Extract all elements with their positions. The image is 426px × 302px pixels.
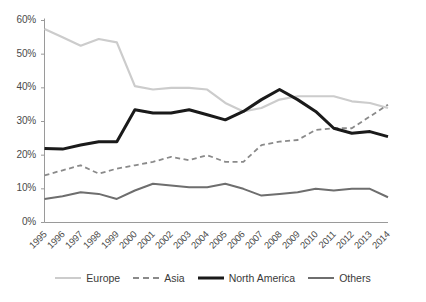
legend-swatch-icon (198, 274, 224, 283)
legend-label: North America (229, 272, 296, 284)
series-lines (45, 29, 389, 199)
legend-label: Asia (164, 272, 184, 284)
legend-swatch-icon (133, 274, 159, 283)
series-line-europe (45, 29, 389, 111)
y-axis-tick-label: 40% (2, 81, 36, 92)
axis-tick-marks (41, 21, 45, 223)
y-axis-tick-label: 0% (2, 216, 36, 227)
legend-swatch-icon (308, 274, 334, 283)
y-axis-tick-label: 60% (2, 14, 36, 25)
y-axis-tick-label: 20% (2, 149, 36, 160)
legend-item-asia[interactable]: Asia (133, 272, 184, 284)
legend-label: Others (339, 272, 371, 284)
y-axis-tick-label: 30% (2, 115, 36, 126)
legend-item-europe[interactable]: Europe (55, 272, 120, 284)
axis-lines (45, 19, 389, 223)
series-line-north-america (45, 90, 389, 150)
y-axis-tick-label: 10% (2, 182, 36, 193)
legend-item-north-america[interactable]: North America (198, 272, 296, 284)
series-line-others (45, 184, 389, 199)
series-line-asia (45, 105, 389, 176)
legend-label: Europe (86, 272, 120, 284)
legend-swatch-icon (55, 274, 81, 283)
legend-item-others[interactable]: Others (308, 272, 371, 284)
chart-legend: EuropeAsiaNorth AmericaOthers (0, 272, 426, 284)
line-chart: 0%10%20%30%40%50%60% 1995199619971998199… (0, 0, 426, 302)
y-axis-tick-label: 50% (2, 48, 36, 59)
